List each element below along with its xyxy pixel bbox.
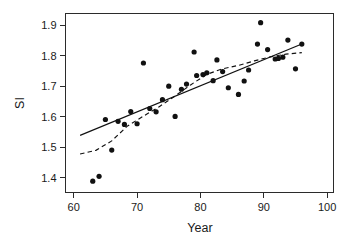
data-point-marker	[226, 85, 231, 90]
axes-frame	[66, 14, 334, 193]
data-point-marker	[236, 92, 241, 97]
data-point-marker	[211, 78, 216, 83]
data-point-marker	[285, 37, 290, 42]
linear-fit-line	[80, 44, 302, 135]
y-tick-label: 1.4	[41, 172, 56, 184]
data-point-marker	[194, 73, 199, 78]
data-point-marker	[134, 121, 139, 126]
x-tick-label: 90	[258, 201, 270, 213]
x-tick-label: 60	[68, 201, 80, 213]
data-point-marker	[109, 147, 114, 152]
data-point-marker	[141, 60, 146, 65]
data-point-marker	[147, 106, 152, 111]
data-point-marker	[276, 56, 281, 61]
data-point-marker	[154, 109, 159, 114]
data-point-marker	[173, 114, 178, 119]
y-tick-label: 1.5	[41, 141, 56, 153]
data-point-marker	[103, 117, 108, 122]
data-point-marker	[204, 70, 209, 75]
scatter-plot-figure: 60708090100 1.41.51.61.71.81.9 Year SI	[0, 0, 348, 242]
data-point-marker	[96, 174, 101, 179]
y-axis-tick-labels: 1.41.51.61.71.81.9	[41, 19, 56, 184]
data-point-marker	[115, 119, 120, 124]
data-point-marker	[242, 78, 247, 83]
data-point-marker	[246, 67, 251, 72]
data-point-marker	[128, 109, 133, 114]
data-point-marker	[179, 87, 184, 92]
data-point-marker	[166, 84, 171, 89]
data-point-marker	[122, 122, 127, 127]
y-tick-label: 1.7	[41, 80, 56, 92]
plot-canvas: 60708090100 1.41.51.61.71.81.9 Year SI	[0, 0, 348, 242]
data-points	[90, 20, 304, 184]
x-axis-title: Year	[187, 221, 212, 235]
data-point-marker	[90, 179, 95, 184]
data-point-marker	[265, 47, 270, 52]
y-tick-label: 1.9	[41, 19, 56, 31]
data-point-marker	[299, 41, 304, 46]
data-point-marker	[280, 55, 285, 60]
x-tick-label: 100	[318, 201, 336, 213]
fit-lines	[80, 44, 302, 154]
data-point-marker	[258, 20, 263, 25]
y-axis-ticks	[60, 25, 66, 178]
data-point-marker	[293, 66, 298, 71]
data-point-marker	[160, 97, 165, 102]
x-tick-label: 70	[131, 201, 143, 213]
data-point-marker	[184, 81, 189, 86]
x-axis-ticks	[74, 193, 327, 199]
x-tick-label: 80	[194, 201, 206, 213]
y-tick-label: 1.8	[41, 50, 56, 62]
data-point-marker	[220, 69, 225, 74]
plot-border	[66, 14, 334, 193]
lowess-smoother-line	[80, 53, 302, 154]
y-tick-label: 1.6	[41, 111, 56, 123]
data-point-marker	[255, 41, 260, 46]
x-axis-tick-labels: 60708090100	[68, 201, 337, 213]
data-point-marker	[192, 49, 197, 54]
y-axis-title: SI	[13, 97, 27, 109]
data-point-marker	[214, 57, 219, 62]
